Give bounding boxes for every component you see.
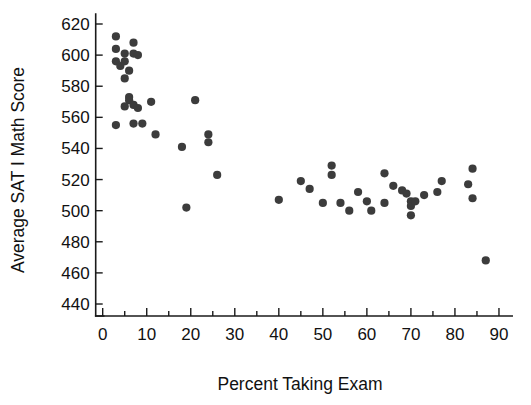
y-tick-label: 500 <box>61 202 89 221</box>
data-point <box>204 130 212 138</box>
data-point <box>328 171 336 179</box>
y-tick-label: 540 <box>61 139 89 158</box>
x-tick-label: 40 <box>269 325 288 344</box>
data-point <box>354 188 362 196</box>
data-point <box>464 180 472 188</box>
data-point <box>112 121 120 129</box>
x-tick-label: 80 <box>445 325 464 344</box>
data-point <box>191 96 199 104</box>
data-point <box>129 119 137 127</box>
data-point <box>306 185 314 193</box>
data-point <box>112 32 120 40</box>
data-point <box>121 57 129 65</box>
x-axis: 0102030405060708090 <box>96 308 512 344</box>
data-point <box>112 45 120 53</box>
x-tick-label: 30 <box>225 325 244 344</box>
data-point <box>121 102 129 110</box>
data-point <box>275 196 283 204</box>
x-tick-label: 60 <box>357 325 376 344</box>
data-point <box>129 39 137 47</box>
y-axis-title: Average SAT I Math Score <box>8 67 28 273</box>
data-point <box>468 165 476 173</box>
data-point <box>147 98 155 106</box>
data-point <box>336 199 344 207</box>
data-point <box>151 130 159 138</box>
data-point <box>134 51 142 59</box>
y-tick-label: 620 <box>61 15 89 34</box>
data-points-layer <box>112 32 490 264</box>
y-tick-label: 480 <box>61 233 89 252</box>
scatter-plot-figure: 440460480500520540560580600620 010203040… <box>0 0 531 405</box>
data-point <box>121 49 129 57</box>
data-point <box>178 143 186 151</box>
x-tick-label: 0 <box>98 325 107 344</box>
data-point <box>407 211 415 219</box>
data-point <box>380 199 388 207</box>
y-tick-label: 560 <box>61 108 89 127</box>
y-tick-label: 580 <box>61 77 89 96</box>
data-point <box>345 207 353 215</box>
y-tick-label: 440 <box>61 295 89 314</box>
y-tick-label: 600 <box>61 46 89 65</box>
x-tick-label: 10 <box>137 325 156 344</box>
plot-canvas: 440460480500520540560580600620 010203040… <box>0 0 531 405</box>
data-point <box>438 177 446 185</box>
data-point <box>380 169 388 177</box>
data-point <box>389 182 397 190</box>
data-point <box>125 67 133 75</box>
data-point <box>121 74 129 82</box>
data-point <box>297 177 305 185</box>
data-point <box>482 256 490 264</box>
data-point <box>213 171 221 179</box>
y-axis-spine <box>96 14 104 316</box>
data-point <box>134 104 142 112</box>
data-point <box>402 189 410 197</box>
data-point <box>468 194 476 202</box>
x-axis-title: Percent Taking Exam <box>217 374 382 394</box>
data-point <box>204 138 212 146</box>
y-axis: 440460480500520540560580600620 <box>61 14 103 316</box>
data-point <box>433 188 441 196</box>
data-point <box>328 161 336 169</box>
x-tick-label: 20 <box>181 325 200 344</box>
data-point <box>363 197 371 205</box>
y-tick-label: 520 <box>61 171 89 190</box>
y-tick-label: 460 <box>61 264 89 283</box>
x-tick-label: 70 <box>401 325 420 344</box>
data-point <box>367 207 375 215</box>
data-point <box>138 119 146 127</box>
data-point <box>420 191 428 199</box>
x-tick-label: 90 <box>490 325 509 344</box>
data-point <box>319 199 327 207</box>
data-point <box>411 197 419 205</box>
data-point <box>182 203 190 211</box>
x-tick-label: 50 <box>313 325 332 344</box>
